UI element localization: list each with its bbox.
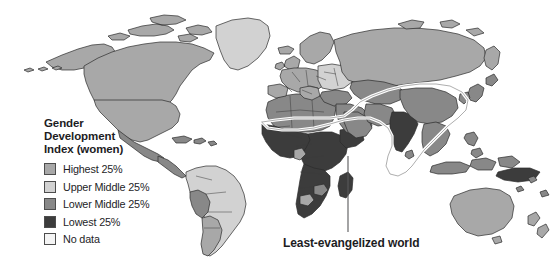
legend-swatch-no-data — [44, 233, 56, 245]
region-japan — [468, 74, 498, 102]
region-scandinavia — [300, 32, 334, 64]
region-aleutian-islands — [24, 66, 62, 72]
legend-title-line-1: Gender — [44, 117, 194, 130]
region-greenland — [216, 18, 270, 70]
region-philippines — [464, 132, 483, 158]
legend-swatch-highest — [44, 163, 56, 175]
least-evangelized-world-label: Least-evangelized world — [283, 236, 419, 250]
legend-label-no-data: No data — [63, 233, 100, 245]
legend-swatch-lower-middle — [44, 198, 56, 210]
legend-item-lower-middle: Lower Middle 25% — [44, 196, 194, 214]
legend-item-no-data: No data — [44, 231, 194, 249]
region-madagascar — [338, 172, 353, 198]
region-sri-lanka — [405, 150, 414, 159]
legend-label-lowest: Lowest 25% — [63, 216, 120, 228]
region-kamchatka — [484, 46, 500, 70]
legend-swatch-lowest — [44, 216, 56, 228]
legend-label-lower-middle: Lower Middle 25% — [63, 198, 149, 210]
legend-title: Gender Development Index (women) — [44, 117, 194, 157]
legend-item-highest: Highest 25% — [44, 161, 194, 179]
legend-label-upper-middle: Upper Middle 25% — [63, 181, 149, 193]
region-australia — [450, 188, 514, 236]
legend-title-line-3: Index (women) — [44, 143, 194, 156]
legend-swatch-upper-middle — [44, 181, 56, 193]
map-legend: Gender Development Index (women) Highest… — [44, 117, 194, 248]
region-new-zealand — [528, 212, 549, 238]
region-canadian-arctic — [108, 15, 212, 42]
region-tasmania — [492, 236, 502, 244]
legend-title-line-2: Development — [44, 130, 194, 143]
legend-item-lowest: Lowest 25% — [44, 213, 194, 231]
region-iberia — [268, 84, 288, 98]
world-map-figure: Gender Development Index (women) Highest… — [0, 0, 554, 273]
region-russia — [334, 28, 486, 86]
legend-item-upper-middle: Upper Middle 25% — [44, 178, 194, 196]
legend-label-highest: Highest 25% — [63, 163, 123, 175]
region-iceland — [278, 46, 294, 54]
region-southern-cone — [201, 216, 222, 256]
